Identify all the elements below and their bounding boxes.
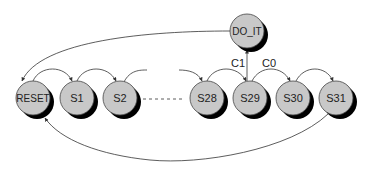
edge-s29-to-s30: [252, 69, 290, 81]
edge-s30-to-s31: [296, 69, 333, 81]
node-label: S31: [326, 92, 346, 104]
node-s1: S1: [60, 81, 98, 119]
edge-label-c1: C1: [231, 57, 245, 69]
node-label: S30: [283, 92, 303, 104]
node-s29: S29: [233, 81, 271, 119]
node-label: S1: [70, 92, 83, 104]
node-s28: S28: [190, 81, 228, 119]
node-s31: S31: [319, 81, 357, 119]
edge-s28-to-s29: [207, 69, 246, 81]
node-do-it: DO_IT: [230, 14, 268, 52]
node-s30: S30: [276, 81, 314, 119]
edge-s31-to-reset: [45, 114, 328, 161]
edge-reset-to-s1: [33, 69, 72, 81]
edge-ellipsis-to-s28: [179, 70, 202, 81]
node-label: S2: [113, 92, 126, 104]
node-label: S28: [197, 92, 217, 104]
node-label: DO_IT: [232, 26, 261, 37]
edge-label-c0: C0: [262, 57, 276, 69]
node-label: S29: [240, 92, 260, 104]
edge-doit-to-reset: [22, 31, 230, 81]
edge-s1-to-s2: [77, 69, 116, 81]
node-label: RESET: [16, 93, 49, 104]
node-reset: RESET: [16, 81, 54, 119]
state-diagram: C1 C0 RESET S1 S2 S28 S29 S30 S31: [0, 0, 371, 172]
node-s2: S2: [103, 81, 141, 119]
edge-s2-to-ellipsis: [124, 70, 147, 82]
